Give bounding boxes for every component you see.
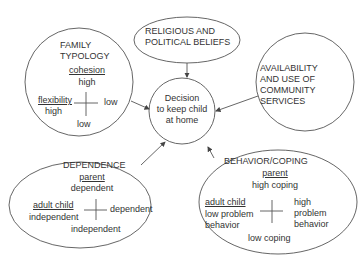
- arrow-family-to-decision: [131, 101, 149, 109]
- behavior-high-problem-line-2: problem: [294, 208, 329, 219]
- services-line-3: COMMUNITY: [260, 85, 318, 96]
- decision-line-3: at home: [148, 115, 216, 126]
- services-line-4: SERVICES: [260, 96, 318, 107]
- decision-line-1: Decision: [148, 93, 216, 104]
- behavior-adult-child-label: adult child: [205, 197, 246, 208]
- behavior-parent-label: parent: [253, 168, 297, 179]
- behavior-low-problem: low problem behavior: [205, 209, 254, 231]
- family-cohesion-label: cohesion: [67, 65, 107, 76]
- behavior-high-problem-line-3: behavior: [294, 219, 329, 230]
- religious-beliefs-label: RELIGIOUS AND POLITICAL BELIEFS: [145, 26, 230, 48]
- family-title-line-2: TYPOLOGY: [60, 51, 110, 62]
- dependence-parent-dependent: dependent: [62, 183, 122, 194]
- decision-label: Decision to keep child at home: [148, 93, 216, 126]
- dependence-title: DEPENDENCE: [63, 160, 126, 171]
- behavior-parent-low-coping: low coping: [248, 233, 291, 244]
- behavior-coping-title: BEHAVIOR/COPING: [224, 156, 308, 167]
- dependence-adult-child-label: adult child: [33, 200, 74, 211]
- behavior-low-problem-line-2: behavior: [205, 220, 254, 231]
- family-typology-title: FAMILY TYPOLOGY: [60, 40, 110, 62]
- dependence-adult-child-dependent: dependent: [110, 204, 153, 215]
- dependence-parent-label: parent: [70, 172, 114, 183]
- religious-line-1: RELIGIOUS AND: [145, 26, 230, 37]
- dependence-parent-independent: independent: [71, 224, 121, 235]
- behavior-high-problem: high problem behavior: [294, 197, 329, 230]
- services-line-1: AVAILABILITY: [260, 63, 318, 74]
- family-flexibility-label: flexibility: [38, 95, 72, 106]
- services-line-2: AND USE OF: [260, 74, 318, 85]
- behavior-high-problem-line-1: high: [294, 197, 329, 208]
- family-cohesion-high: high: [67, 77, 107, 88]
- family-cohesion-low: low: [77, 119, 91, 130]
- behavior-low-problem-line-1: low problem: [205, 209, 254, 220]
- religious-line-2: POLITICAL BELIEFS: [145, 37, 230, 48]
- arrow-behavior-to-decision: [208, 147, 214, 158]
- family-flexibility-high: high: [45, 106, 62, 117]
- family-flexibility-low: low: [104, 97, 118, 108]
- behavior-parent-high-coping: high coping: [240, 180, 310, 191]
- arrow-services-to-decision: [216, 96, 258, 111]
- decision-line-2: to keep child: [148, 104, 216, 115]
- community-services-label: AVAILABILITY AND USE OF COMMUNITY SERVIC…: [260, 63, 318, 107]
- dependence-adult-child-independent: independent: [29, 212, 79, 223]
- arrow-dependence-to-decision: [141, 142, 165, 165]
- family-title-line-1: FAMILY: [60, 40, 110, 51]
